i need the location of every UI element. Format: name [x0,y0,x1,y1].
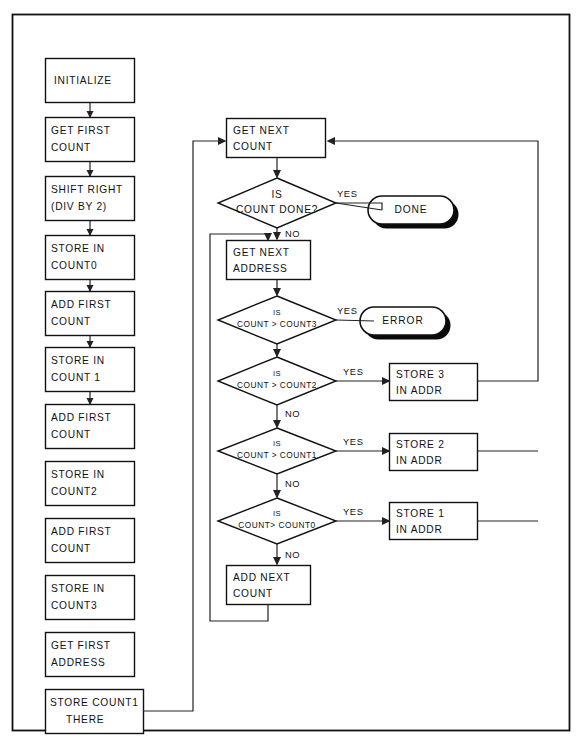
node-initialize[interactable]: INITIALIZE [46,59,135,103]
node-store-in-count1[interactable]: STORE IN COUNT 1 [46,348,135,392]
node-add-first-count-a-line1: ADD FIRST [51,299,112,310]
node-get-next-address-line1: GET NEXT [233,247,290,258]
node-get-first-count[interactable]: GET FIRST COUNT [46,118,135,162]
flowchart-page: INITIALIZE GET FIRST COUNT SHIFT RIGHT (… [0,0,583,744]
inner-loop [210,234,268,621]
node-shift-right[interactable]: SHIFT RIGHT (DIV BY 2) [46,177,135,221]
node-is-count-done[interactable]: IS COUNT DONE? [218,178,336,228]
node-add-first-count-c-line1: ADD FIRST [51,526,112,537]
node-done-terminator[interactable]: DONE [368,196,458,229]
node-add-first-count-b[interactable]: ADD FIRST COUNT [46,405,135,449]
node-is-count-gt-count0-line2: COUNT> COUNT0 [238,520,315,530]
node-store-in-count0[interactable]: STORE IN COUNT0 [46,236,135,280]
node-shift-right-line2: (DIV BY 2) [51,201,107,212]
branch-yes-done: YES [337,188,358,199]
node-is-count-gt-count0[interactable]: IS COUNT> COUNT0 [218,498,336,544]
node-store-count1-there-line2: THERE [66,714,104,725]
branch-no-count2: NO [285,408,300,419]
node-store-in-count3-line1: STORE IN [51,583,105,594]
node-store-3-in-addr[interactable]: STORE 3 IN ADDR [390,364,478,401]
node-store-in-count2-line1: STORE IN [51,469,105,480]
node-get-next-count[interactable]: GET NEXT COUNT [227,119,326,158]
node-store-1-in-addr-line1: STORE 1 [396,508,445,519]
node-is-count-gt-count2-line2: COUNT > COUNT2 [237,380,317,390]
node-is-count-done-line2: COUNT DONE? [236,204,318,215]
node-is-count-gt-count1-line1: IS [273,439,281,448]
node-error-terminator[interactable]: ERROR [360,307,451,340]
node-get-next-address-line2: ADDRESS [233,263,288,274]
node-is-count-gt-count0-line1: IS [273,509,281,518]
node-get-first-address-line2: ADDRESS [51,657,106,668]
node-add-first-count-b-line1: ADD FIRST [51,412,112,423]
node-store-1-in-addr[interactable]: STORE 1 IN ADDR [390,503,478,540]
branch-no-count1: NO [285,478,300,489]
node-add-next-count-line1: ADD NEXT [233,572,291,583]
node-add-next-count-line2: COUNT [233,588,273,599]
node-get-first-count-line1: GET FIRST [51,125,111,136]
node-store-1-in-addr-line2: IN ADDR [396,524,443,535]
store-return-rail [329,141,538,381]
node-store-in-count2-line2: COUNT2 [51,486,97,497]
node-store-in-count0-line2: COUNT0 [51,260,97,271]
node-store-count1-there-line1: STORE COUNT1 [50,697,139,708]
node-store-3-in-addr-line1: STORE 3 [396,369,445,380]
node-store-count1-there[interactable]: STORE COUNT1 THERE [46,690,144,734]
node-store-2-in-addr-line2: IN ADDR [396,455,443,466]
node-initialize-line1: INITIALIZE [54,75,112,86]
node-store-in-count2[interactable]: STORE IN COUNT2 [46,462,135,506]
node-add-first-count-b-line2: COUNT [51,429,91,440]
branch-yes-store1: YES [343,506,364,517]
branch-yes-store3: YES [343,366,364,377]
node-store-in-count1-line1: STORE IN [51,355,105,366]
node-get-first-address[interactable]: GET FIRST ADDRESS [46,633,135,677]
node-store-2-in-addr[interactable]: STORE 2 IN ADDR [390,434,478,471]
node-shift-right-line1: SHIFT RIGHT [51,184,123,195]
node-add-first-count-c-line2: COUNT [51,543,91,554]
node-store-in-count3[interactable]: STORE IN COUNT3 [46,576,135,620]
node-get-first-count-line2: COUNT [51,142,91,153]
node-is-count-gt-count3[interactable]: IS COUNT > COUNT3 [218,296,336,344]
node-add-next-count[interactable]: ADD NEXT COUNT [227,566,311,605]
node-is-count-gt-count3-line1: IS [273,308,281,317]
node-get-first-address-line1: GET FIRST [51,640,111,651]
node-is-count-gt-count3-line2: COUNT > COUNT3 [237,319,317,329]
branch-no-done: NO [285,228,300,239]
node-is-count-gt-count2-line1: IS [273,369,281,378]
flowchart-canvas: INITIALIZE GET FIRST COUNT SHIFT RIGHT (… [0,0,583,744]
node-store-3-in-addr-line2: IN ADDR [396,385,443,396]
feedback-loops [143,137,538,711]
node-error-label: ERROR [382,315,423,326]
node-store-2-in-addr-line1: STORE 2 [396,439,445,450]
node-add-first-count-a-line2: COUNT [51,316,91,327]
node-get-next-count-line1: GET NEXT [233,125,290,136]
node-is-count-gt-count1[interactable]: IS COUNT > COUNT1 [218,428,336,474]
node-store-in-count0-line1: STORE IN [51,243,105,254]
branch-yes-error: YES [337,305,358,316]
node-add-first-count-a[interactable]: ADD FIRST COUNT [46,292,135,336]
node-add-first-count-c[interactable]: ADD FIRST COUNT [46,519,135,563]
node-get-next-count-line2: COUNT [233,141,273,152]
outer-loop [143,141,224,711]
node-store-in-count3-line2: COUNT3 [51,600,97,611]
node-is-count-gt-count2[interactable]: IS COUNT > COUNT2 [218,357,336,405]
node-done-label: DONE [394,204,427,215]
node-store-in-count1-line2: COUNT 1 [51,372,101,383]
branch-yes-store2: YES [343,436,364,447]
node-get-next-address[interactable]: GET NEXT ADDRESS [227,241,311,280]
node-is-count-done-line1: IS [271,189,282,200]
branch-no-count0: NO [285,549,300,560]
node-is-count-gt-count1-line2: COUNT > COUNT1 [237,450,317,460]
